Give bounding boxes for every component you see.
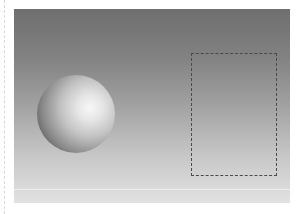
left-edge-dashed-line xyxy=(4,0,5,214)
selection-rectangle[interactable] xyxy=(191,53,277,176)
shaded-sphere[interactable] xyxy=(37,75,115,153)
render-canvas xyxy=(14,9,290,203)
floor-horizon-line xyxy=(14,189,290,190)
